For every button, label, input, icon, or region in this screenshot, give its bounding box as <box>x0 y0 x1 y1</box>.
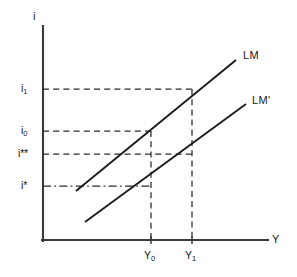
diagram-canvas <box>0 0 297 277</box>
curve-lm <box>76 60 236 191</box>
tick-label-y0: Y0 <box>144 250 155 261</box>
tick-label-y0-sub: 0 <box>151 254 155 263</box>
x-axis-label: Y <box>272 234 279 245</box>
y-axis-label: i <box>33 11 35 22</box>
tick-label-i-double-star-stars: ** <box>20 147 27 159</box>
tick-label-i-double-star: i** <box>18 148 28 159</box>
curve-label-lm-prime: LM' <box>252 95 270 106</box>
tick-label-y1: Y1 <box>185 250 196 261</box>
tick-label-i-star: i* <box>21 180 27 191</box>
tick-label-y1-base: Y <box>185 249 192 261</box>
tick-label-y1-sub: 1 <box>192 254 196 263</box>
tick-label-i-star-stars: * <box>23 179 27 191</box>
lm-curve-diagram: i Y LM LM' i1 i0 i** i* Y0 Y1 <box>0 0 297 277</box>
curve-label-lm: LM <box>243 50 259 61</box>
tick-label-i0-sub: 0 <box>23 129 27 138</box>
tick-label-i1: i1 <box>21 83 28 94</box>
tick-label-i0: i0 <box>21 125 28 136</box>
tick-label-y0-base: Y <box>144 249 151 261</box>
tick-label-i1-sub: 1 <box>23 87 27 96</box>
